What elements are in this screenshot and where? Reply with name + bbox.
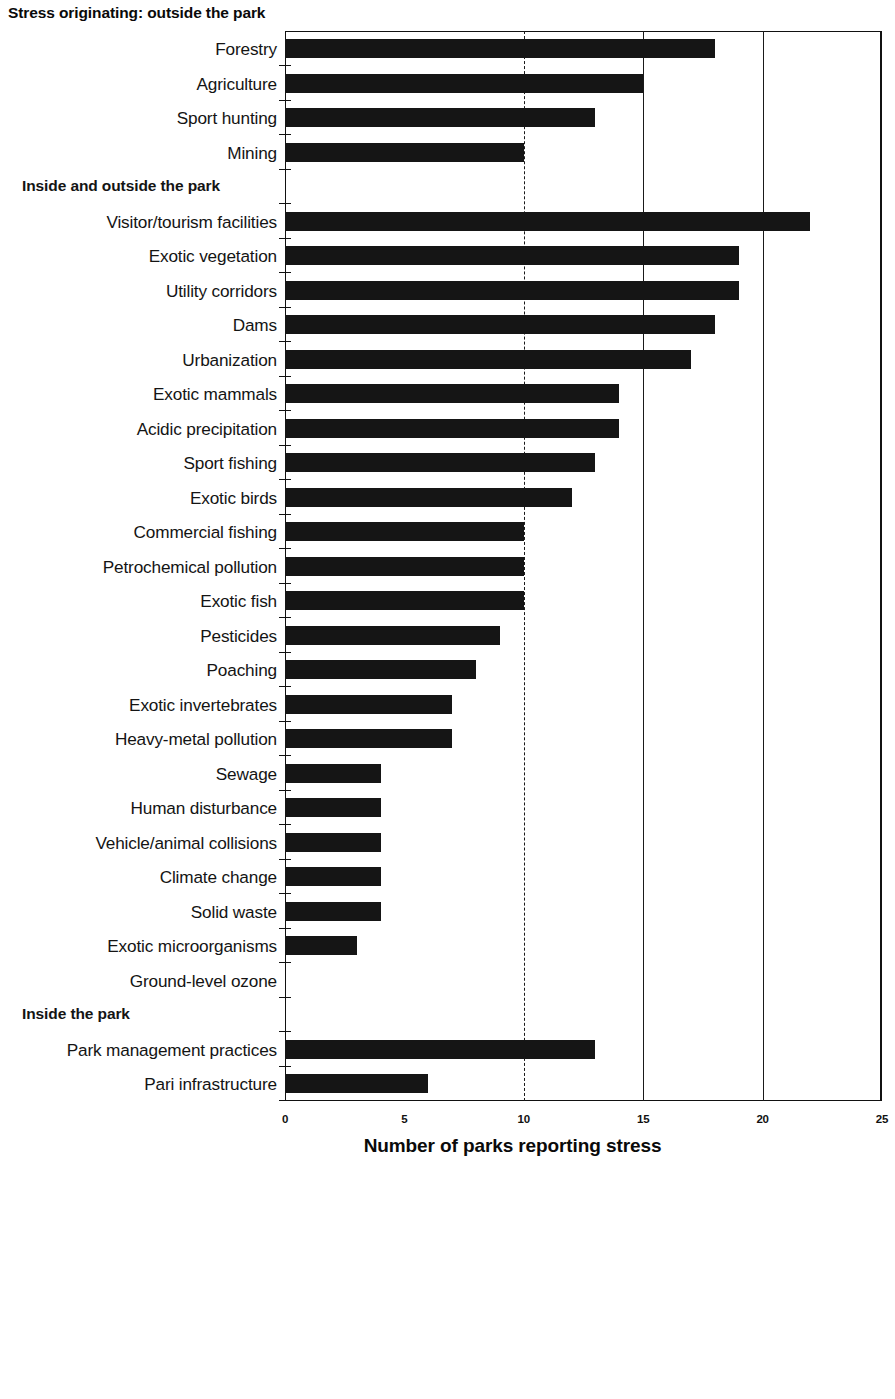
- category-label-urbanization: Urbanization: [0, 350, 277, 371]
- x-tick-label-25: 25: [876, 1113, 888, 1125]
- group-header-outside-the-park: Stress originating: outside the park: [8, 4, 265, 22]
- category-label-solid-waste: Solid waste: [0, 902, 277, 923]
- bar-row: [285, 66, 882, 101]
- category-label-petrochemical-pollution: Petrochemical pollution: [0, 557, 277, 578]
- bar: [285, 281, 739, 300]
- bar-row: [285, 204, 882, 239]
- bar: [285, 729, 452, 748]
- x-tick-label-5: 5: [401, 1113, 407, 1125]
- x-axis-title-text: Number of parks reporting stress: [364, 1135, 662, 1157]
- bar: [285, 246, 739, 265]
- x-tick-label-20: 20: [756, 1113, 768, 1125]
- bar: [285, 315, 715, 334]
- bar-row: [285, 376, 882, 411]
- category-label-dams: Dams: [0, 315, 277, 336]
- bar: [285, 143, 524, 162]
- category-label-human-disturbance: Human disturbance: [0, 798, 277, 819]
- bar: [285, 453, 595, 472]
- x-tick-label-10: 10: [518, 1113, 530, 1125]
- x-axis-title: Number of parks reporting stress: [0, 1135, 895, 1157]
- bar: [285, 867, 381, 886]
- bar-row: [285, 307, 882, 342]
- category-label-sport-fishing: Sport fishing: [0, 453, 277, 474]
- bar-row: [285, 480, 882, 515]
- bar: [285, 695, 452, 714]
- bar-row: [285, 721, 882, 756]
- group-header-row: [285, 997, 882, 1032]
- bar-row: [285, 825, 882, 860]
- category-label-sewage: Sewage: [0, 764, 277, 785]
- bar: [285, 419, 619, 438]
- bar-row: [285, 445, 882, 480]
- group-header-inside-and-outside-the-park: Inside and outside the park: [0, 177, 277, 195]
- bar-row: [285, 756, 882, 791]
- bar: [285, 902, 381, 921]
- category-label-exotic-invertebrates: Exotic invertebrates: [0, 695, 277, 716]
- bar: [285, 384, 619, 403]
- category-label-exotic-fish: Exotic fish: [0, 591, 277, 612]
- bar: [285, 350, 691, 369]
- category-label-utility-corridors: Utility corridors: [0, 281, 277, 302]
- bar-row: [285, 273, 882, 308]
- bar-row: [285, 135, 882, 170]
- category-label-mining: Mining: [0, 143, 277, 164]
- group-header-row: [285, 169, 882, 204]
- bar-row: [285, 514, 882, 549]
- bar-row: [285, 549, 882, 584]
- bar: [285, 212, 810, 231]
- plot-area: [285, 31, 882, 1101]
- y-axis-tick: [279, 1100, 291, 1101]
- bar: [285, 1074, 428, 1093]
- bar: [285, 1040, 595, 1059]
- bar: [285, 936, 357, 955]
- bar: [285, 74, 643, 93]
- bar-chart-figure: Stress originating: outside the park For…: [0, 0, 895, 1399]
- bar: [285, 591, 524, 610]
- bar: [285, 798, 381, 817]
- x-tick-label-15: 15: [637, 1113, 649, 1125]
- bar: [285, 660, 476, 679]
- category-label-exotic-microorganisms: Exotic microorganisms: [0, 936, 277, 957]
- category-label-exotic-vegetation: Exotic vegetation: [0, 246, 277, 267]
- bar: [285, 39, 715, 58]
- category-label-sport-hunting: Sport hunting: [0, 108, 277, 129]
- bar: [285, 626, 500, 645]
- category-label-poaching: Poaching: [0, 660, 277, 681]
- bar-row: [285, 583, 882, 618]
- bar: [285, 764, 381, 783]
- category-label-ground-level-ozone: Ground-level ozone: [0, 971, 277, 992]
- group-header-inside-the-park: Inside the park: [0, 1005, 277, 1023]
- category-label-climate-change: Climate change: [0, 867, 277, 888]
- category-label-acidic-precipitation: Acidic precipitation: [0, 419, 277, 440]
- bar-row: [285, 859, 882, 894]
- category-label-exotic-birds: Exotic birds: [0, 488, 277, 509]
- category-label-forestry: Forestry: [0, 39, 277, 60]
- bar-row: [285, 1032, 882, 1067]
- bar-row: [285, 894, 882, 929]
- category-label-commercial-fishing: Commercial fishing: [0, 522, 277, 543]
- bar: [285, 833, 381, 852]
- bar-row: [285, 411, 882, 446]
- bar-row: [285, 963, 882, 998]
- bar-row: [285, 618, 882, 653]
- bar-row: [285, 238, 882, 273]
- bar-row: [285, 652, 882, 687]
- bar: [285, 557, 524, 576]
- x-tick-label-0: 0: [282, 1113, 288, 1125]
- bar-row: [285, 100, 882, 135]
- bar-row: [285, 1066, 882, 1101]
- category-label-agriculture: Agriculture: [0, 74, 277, 95]
- bar-row: [285, 687, 882, 722]
- bar: [285, 488, 572, 507]
- bar-row: [285, 928, 882, 963]
- category-label-heavy-metal-pollution: Heavy-metal pollution: [0, 729, 277, 750]
- category-label-park-management-practices: Park management practices: [0, 1040, 277, 1061]
- bar: [285, 522, 524, 541]
- bar-row: [285, 342, 882, 377]
- bar-row: [285, 790, 882, 825]
- bar: [285, 108, 595, 127]
- bar-row: [285, 31, 882, 66]
- category-label-visitor-tourism-facilities: Visitor/tourism facilities: [0, 212, 277, 233]
- category-label-exotic-mammals: Exotic mammals: [0, 384, 277, 405]
- category-label-vehicle-animal-collisions: Vehicle/animal collisions: [0, 833, 277, 854]
